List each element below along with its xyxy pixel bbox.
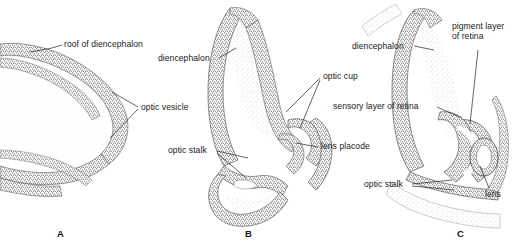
optic-stalk-b — [218, 166, 288, 196]
label-diencephalon-b: diencephalon — [158, 53, 210, 63]
leader-roof-of-diencephalon-2 — [52, 45, 62, 48]
panel-a-drawing — [0, 43, 138, 196]
leader-optic-cup-b-upper — [286, 78, 320, 112]
anatomical-drawing — [0, 0, 512, 252]
label-roof-of-diencephalon: roof of diencephalon — [64, 39, 143, 49]
label-pigment-layer-line2: of retina — [452, 31, 484, 41]
panel-letter-c: C — [457, 228, 464, 239]
panel-letter-a: A — [57, 228, 64, 239]
panel-b-drawing — [208, 8, 332, 227]
label-optic-stalk-c: optic stalk — [364, 179, 403, 189]
label-optic-stalk-b: optic stalk — [168, 145, 207, 155]
label-optic-vesicle: optic vesicle — [141, 102, 188, 112]
label-diencephalon-c: diencephalon — [352, 41, 404, 51]
label-pigment-layer-of-retina: pigment layer of retina — [452, 21, 512, 41]
surface-ectoderm-strip-c — [362, 4, 402, 36]
label-sensory-layer-of-retina: sensory layer of retina — [333, 101, 419, 111]
label-lens: lens — [485, 189, 501, 199]
leader-pigment-layer-c — [470, 50, 478, 124]
label-lens-placode: lens placode — [321, 141, 370, 151]
panel-letter-b: B — [245, 228, 252, 239]
label-optic-cup: optic cup — [323, 71, 358, 81]
eye-development-figure: roof of diencephalon optic vesicle dienc… — [0, 0, 512, 252]
label-pigment-layer-line1: pigment layer — [452, 21, 504, 31]
lens-vesicle-c — [470, 138, 498, 176]
